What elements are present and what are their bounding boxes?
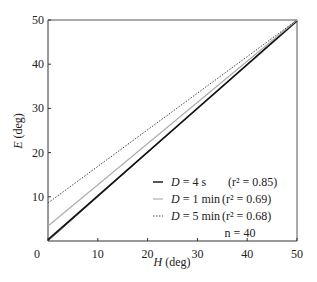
x-tick-label: 40 bbox=[241, 247, 253, 261]
y-tick-label: 50 bbox=[32, 13, 44, 27]
y-tick-label: 20 bbox=[32, 146, 44, 160]
x-tick-label: 20 bbox=[142, 247, 154, 261]
x-tick-label: 30 bbox=[191, 247, 203, 261]
x-tick-label: 0 bbox=[34, 247, 40, 261]
x-axis-label: H (deg) bbox=[153, 255, 191, 269]
x-tick-label: 10 bbox=[92, 247, 104, 261]
annotation-n: n = 40 bbox=[225, 226, 256, 240]
legend-label: D = 5 min bbox=[170, 209, 220, 223]
legend-r2: (r² = 0.69) bbox=[222, 192, 271, 206]
series-line-d-4-s bbox=[48, 21, 297, 240]
y-axis-label: E (deg) bbox=[11, 113, 25, 150]
y-tick-label: 40 bbox=[32, 57, 44, 71]
legend-label: D = 4 s bbox=[170, 175, 206, 189]
y-tick-label: 30 bbox=[32, 101, 44, 115]
series-lines bbox=[48, 20, 297, 241]
legend-label: D = 1 min bbox=[170, 192, 220, 206]
chart: 01020304050 1020304050 H (deg) E (deg) D… bbox=[0, 0, 317, 282]
legend-r2: (r² = 0.68) bbox=[222, 209, 271, 223]
legend-r2: (r² = 0.85) bbox=[228, 175, 277, 189]
x-tick-label: 50 bbox=[291, 247, 303, 261]
y-tick-label: 10 bbox=[32, 190, 44, 204]
legend: D = 4 s(r² = 0.85)D = 1 min(r² = 0.69)D … bbox=[153, 175, 277, 223]
